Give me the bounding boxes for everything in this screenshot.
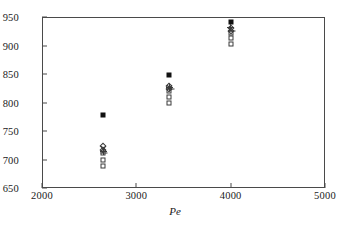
x-tick-label: 5000: [314, 190, 336, 201]
y-tick-label: 950: [0, 12, 19, 23]
data-point-open-square: [101, 164, 106, 169]
data-point-filled-square: [167, 73, 172, 78]
y-tick-mark: [42, 17, 47, 18]
data-point-plus: [100, 148, 107, 155]
x-tick-mark: [42, 183, 43, 188]
x-tick-label: 3000: [125, 190, 147, 201]
y-tick-mark: [42, 131, 47, 132]
data-point-open-square: [228, 36, 233, 41]
x-tick-label: 2000: [31, 190, 53, 201]
scatter-plot-figure: 650700750800850900950 2000300040005000 P…: [0, 0, 350, 233]
data-point-plus: [166, 84, 173, 91]
x-axis-title: Pe: [0, 205, 350, 217]
x-tick-mark: [230, 183, 231, 188]
data-point-dash: [228, 30, 235, 31]
y-tick-label: 900: [0, 40, 19, 51]
data-point-open-square: [101, 157, 106, 162]
x-tick-label: 4000: [220, 190, 242, 201]
x-tick-mark: [325, 183, 326, 188]
data-point-open-square: [167, 94, 172, 99]
data-point-dash: [101, 153, 108, 154]
x-tick-mark: [136, 183, 137, 188]
y-tick-mark: [42, 102, 47, 103]
data-point-dash: [167, 88, 174, 89]
y-tick-label: 700: [0, 154, 19, 165]
y-tick-mark: [42, 74, 47, 75]
y-tick-mark: [42, 45, 47, 46]
data-point-open-square: [228, 42, 233, 47]
y-tick-mark: [42, 188, 47, 189]
plot-frame: [42, 17, 325, 188]
y-tick-mark: [42, 159, 47, 160]
y-tick-label: 850: [0, 69, 19, 80]
y-tick-label: 750: [0, 126, 19, 137]
data-point-filled-square: [101, 113, 106, 118]
y-tick-label: 800: [0, 97, 19, 108]
data-point-open-square: [167, 100, 172, 105]
y-tick-label: 650: [0, 183, 19, 194]
